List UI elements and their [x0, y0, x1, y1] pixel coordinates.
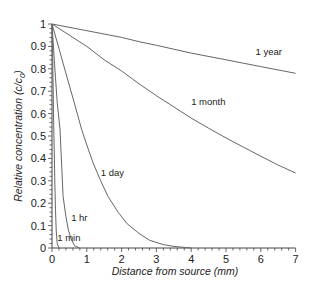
curve-1-min	[52, 24, 59, 248]
curve-label-1-day: 1 day	[101, 167, 124, 178]
y-axis-ticks: 00.10.20.30.40.50.60.70.80.91	[31, 18, 52, 254]
curve-label-1-min: 1 min	[57, 232, 80, 243]
x-tick-label: 6	[258, 253, 264, 265]
concentration-chart: 01234567 00.10.20.30.40.50.60.70.80.91 1…	[0, 0, 312, 293]
x-tick-label: 3	[153, 253, 159, 265]
x-tick-label: 7	[293, 253, 299, 265]
y-axis-title-main: Relative concentration (c/c	[12, 77, 24, 201]
x-axis-title: Distance from source (mm)	[112, 265, 239, 277]
y-tick-label: 0	[40, 242, 46, 254]
y-axis-title: Relative concentration (c/c0)	[12, 70, 27, 202]
curve-label-1-year: 1 year	[256, 46, 282, 57]
x-tick-label: 2	[119, 253, 125, 265]
y-tick-label: 0.8	[31, 63, 46, 75]
y-tick-label: 0.2	[31, 197, 46, 209]
curve-label-1-month: 1 month	[191, 96, 225, 107]
y-tick-label: 0.1	[31, 220, 46, 232]
curve-labels: 1 min1 hr1 day1 month1 year	[57, 46, 282, 243]
y-tick-label: 0.4	[31, 152, 46, 164]
x-tick-label: 1	[84, 253, 90, 265]
concentration-curves	[52, 24, 296, 248]
x-tick-label: 0	[49, 253, 55, 265]
x-axis-ticks: 01234567	[49, 248, 299, 265]
y-tick-label: 1	[40, 18, 46, 30]
y-tick-label: 0.5	[31, 130, 46, 142]
y-tick-label: 0.7	[31, 85, 46, 97]
x-tick-label: 4	[188, 253, 194, 265]
axes	[52, 24, 296, 248]
curve-label-1-hr: 1 hr	[71, 212, 87, 223]
x-tick-label: 5	[223, 253, 229, 265]
y-tick-label: 0.6	[31, 108, 46, 120]
y-tick-label: 0.3	[31, 175, 46, 187]
y-tick-label: 0.9	[31, 40, 46, 52]
